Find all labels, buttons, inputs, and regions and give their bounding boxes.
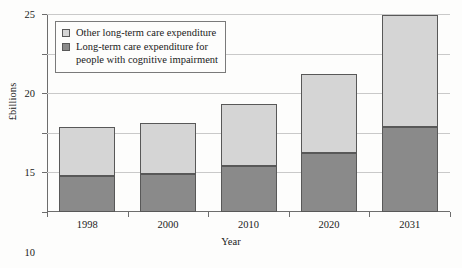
x-tick-label: 2000: [157, 219, 178, 230]
x-tick-mark: [450, 212, 451, 217]
legend-swatch-icon-other: [62, 29, 70, 37]
legend: Other long-term care expenditure Long-te…: [55, 21, 226, 73]
bar-segment-cognitive: [301, 153, 357, 212]
legend-label-cognitive: Long-term care expenditure for people wi…: [76, 40, 218, 67]
legend-item-other: Other long-term care expenditure: [62, 26, 218, 40]
bar-group: [221, 105, 277, 212]
legend-label-other: Other long-term care expenditure: [76, 26, 216, 40]
x-tick-label: 1998: [77, 219, 98, 230]
y-tick-label: 10: [25, 246, 36, 257]
bar-segment-cognitive: [59, 176, 115, 212]
bar-group: [382, 16, 438, 212]
y-tick-label: 25: [25, 9, 36, 20]
bar-segment-other: [221, 104, 277, 166]
bar-segment-other: [301, 74, 357, 153]
x-tick-mark: [208, 212, 209, 217]
bar-segment-cognitive: [221, 166, 277, 212]
x-tick-label: 2031: [399, 219, 420, 230]
stacked-bar-chart: £billions 0510152025 1998200020102020203…: [0, 0, 462, 268]
bar-group: [59, 128, 115, 212]
y-axis-title: £billions: [7, 62, 18, 142]
legend-swatch-icon-cognitive: [62, 43, 70, 51]
bar-segment-cognitive: [382, 127, 438, 212]
x-tick-mark: [289, 212, 290, 217]
x-tick-mark: [47, 212, 48, 217]
x-tick-mark: [128, 212, 129, 217]
legend-item-cognitive: Long-term care expenditure for people wi…: [62, 40, 218, 67]
x-tick-label: 2020: [319, 219, 340, 230]
x-axis: 19982000201020202031: [47, 212, 450, 236]
bar-segment-other: [140, 123, 196, 174]
bar-group: [301, 75, 357, 212]
y-tick-label: 15: [25, 167, 36, 178]
x-axis-title: Year: [0, 236, 462, 247]
y-tick-label: 20: [25, 88, 36, 99]
bar-segment-cognitive: [140, 174, 196, 212]
x-tick-mark: [369, 212, 370, 217]
bar-segment-other: [382, 15, 438, 127]
bar-group: [140, 124, 196, 212]
x-tick-label: 2010: [238, 219, 259, 230]
bar-segment-other: [59, 127, 115, 176]
